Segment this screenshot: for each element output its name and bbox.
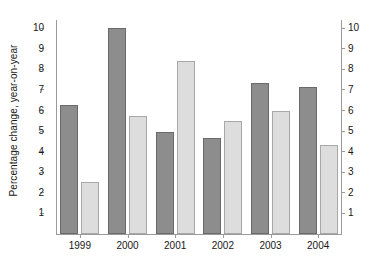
- y-tick-mark-right: [341, 172, 345, 173]
- y-tick-label-left: 1: [24, 208, 44, 218]
- bar-2002-light-series: [224, 121, 242, 234]
- y-tick-mark-right: [341, 131, 345, 132]
- y-tick-label-left: 2: [24, 188, 44, 198]
- x-tick-label-2001: 2001: [153, 241, 197, 251]
- x-tick-mark: [223, 234, 224, 238]
- y-tick-label-right: 3: [348, 167, 368, 177]
- x-tick-mark: [80, 234, 81, 238]
- x-tick-mark: [175, 234, 176, 238]
- bar-2001-light-series: [177, 61, 195, 234]
- left-axis-spine: [56, 20, 57, 234]
- right-axis-spine: [341, 20, 342, 234]
- y-tick-mark-right: [341, 89, 345, 90]
- y-tick-mark-right: [341, 151, 345, 152]
- x-tick-label-2003: 2003: [249, 241, 293, 251]
- bar-2000-light-series: [129, 116, 147, 234]
- y-tick-label-right: 7: [348, 85, 368, 95]
- bar-1999-light-series: [81, 182, 99, 234]
- x-tick-label-2002: 2002: [201, 241, 245, 251]
- y-tick-mark-right: [341, 213, 345, 214]
- y-tick-label-left: 6: [24, 106, 44, 116]
- x-tick-mark: [271, 234, 272, 238]
- bar-2004-light-series: [320, 145, 338, 235]
- plot-area: 12345678910 12345678910 1999200020012002…: [56, 20, 342, 234]
- bar-2003-light-series: [272, 111, 290, 234]
- y-axis-title: Percentage change, year-on-year: [8, 44, 19, 196]
- y-tick-label-right: 6: [348, 106, 368, 116]
- y-tick-mark-right: [341, 28, 345, 29]
- x-tick-label-1999: 1999: [58, 241, 102, 251]
- y-tick-label-right: 9: [348, 44, 368, 54]
- y-tick-mark-right: [341, 192, 345, 193]
- bar-2000-dark-series: [108, 28, 126, 234]
- y-tick-label-right: 1: [348, 208, 368, 218]
- y-tick-label-left: 8: [24, 64, 44, 74]
- x-tick-mark: [318, 234, 319, 238]
- y-tick-label-right: 5: [348, 126, 368, 136]
- y-tick-label-right: 4: [348, 147, 368, 157]
- y-tick-label-left: 7: [24, 85, 44, 95]
- x-tick-label-2004: 2004: [296, 241, 340, 251]
- y-tick-label-right: 2: [348, 188, 368, 198]
- y-tick-label-left: 9: [24, 44, 44, 54]
- bar-chart: Percentage change, year-on-year 12345678…: [0, 0, 390, 271]
- bar-2004-dark-series: [299, 87, 317, 234]
- bar-1999-dark-series: [60, 105, 78, 234]
- y-tick-mark-right: [341, 69, 345, 70]
- y-tick-label-right: 8: [348, 64, 368, 74]
- y-tick-mark-right: [341, 48, 345, 49]
- y-tick-label-left: 5: [24, 126, 44, 136]
- x-tick-label-2000: 2000: [106, 241, 150, 251]
- y-tick-mark-right: [341, 110, 345, 111]
- y-tick-label-left: 10: [24, 23, 44, 33]
- y-tick-label-right: 10: [348, 23, 368, 33]
- y-tick-label-left: 4: [24, 147, 44, 157]
- y-tick-label-left: 3: [24, 167, 44, 177]
- bar-2002-dark-series: [203, 138, 221, 234]
- y-axis-title-container: Percentage change, year-on-year: [0, 0, 26, 240]
- bar-2003-dark-series: [251, 83, 269, 234]
- bar-2001-dark-series: [156, 132, 174, 234]
- bottom-axis-spine: [56, 234, 342, 235]
- x-tick-mark: [128, 234, 129, 238]
